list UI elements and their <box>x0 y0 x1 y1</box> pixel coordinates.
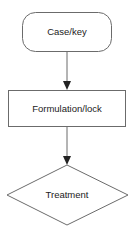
edge-arrow <box>63 52 71 90</box>
flowchart: Case/key Formulation/lock Treatment <box>0 0 135 235</box>
node-label: Treatment <box>46 189 89 200</box>
arrowhead-icon <box>63 156 71 165</box>
node-formulation-lock: Formulation/lock <box>9 91 126 127</box>
edge-arrow <box>63 127 71 165</box>
node-treatment: Treatment <box>7 165 128 225</box>
node-label: Case/key <box>47 26 87 37</box>
arrowhead-icon <box>63 81 71 90</box>
node-label: Formulation/lock <box>32 103 102 114</box>
node-case-key: Case/key <box>23 13 112 52</box>
